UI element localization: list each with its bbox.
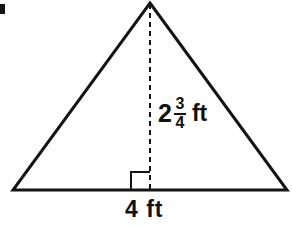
- triangle-diagram-svg: [0, 0, 292, 226]
- geometry-figure: 2 3 4 ft 4 ft: [0, 0, 292, 226]
- corner-artifact-mark: [0, 4, 5, 14]
